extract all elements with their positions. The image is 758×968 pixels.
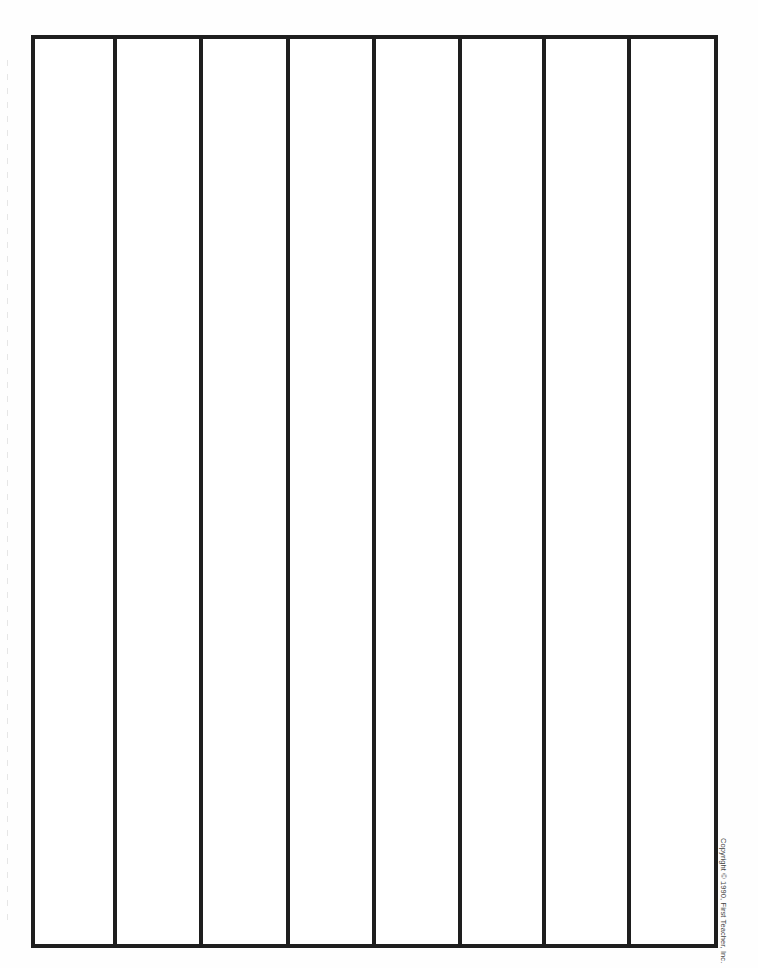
worksheet-page: Copyright © 1990, First Teacher, Inc.	[0, 0, 758, 968]
column-divider-6	[542, 39, 546, 944]
column-grid-frame	[31, 35, 718, 948]
scan-artifact	[7, 60, 8, 920]
copyright-notice: Copyright © 1990, First Teacher, Inc.	[718, 838, 728, 948]
column-divider-4	[372, 39, 376, 944]
column-divider-2	[199, 39, 203, 944]
column-divider-3	[286, 39, 290, 944]
column-divider-1	[113, 39, 117, 944]
column-divider-7	[627, 39, 631, 944]
column-divider-5	[458, 39, 462, 944]
